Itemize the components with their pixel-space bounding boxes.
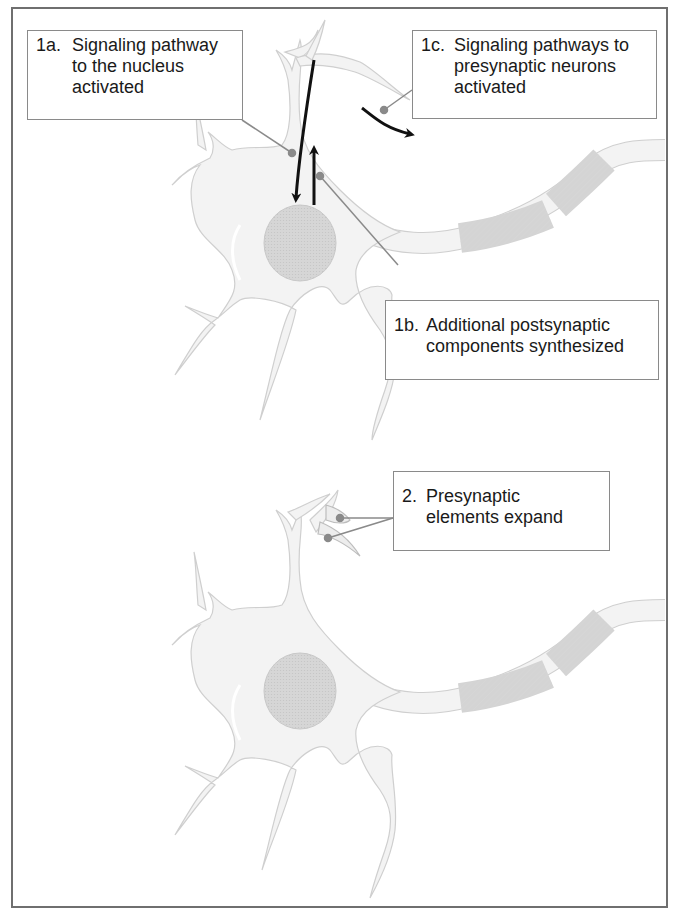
label-1a: 1a. Signaling pathway to the nucleus act… (27, 30, 243, 120)
label-1b-line-2: components synthesized (394, 336, 650, 357)
leader-dot-1b (317, 173, 324, 180)
label-1a-line-1: Signaling pathway (72, 35, 218, 56)
label-1b-number: 1b. (394, 315, 426, 336)
bottom-neuron (172, 490, 665, 898)
label-2-line-2: elements expand (402, 507, 601, 528)
leader-dot-1c (381, 107, 388, 114)
label-1c-number: 1c. (421, 35, 454, 56)
leader-dot-2b (325, 535, 332, 542)
label-1c-line-3: activated (421, 77, 648, 98)
label-1c-line-1: Signaling pathways to (454, 35, 629, 56)
label-2: 2. Presynaptic elements expand (393, 471, 610, 551)
label-1a-line-3: activated (36, 77, 234, 98)
label-1a-number: 1a. (36, 35, 72, 56)
label-1c: 1c. Signaling pathways to presynaptic ne… (412, 30, 657, 119)
leader-dot-1a (289, 150, 296, 157)
neuron-illustration (0, 0, 678, 919)
label-1b: 1b. Additional postsynaptic components s… (385, 300, 659, 380)
label-1a-line-2: to the nucleus (36, 56, 234, 77)
label-1c-line-2: presynaptic neurons (421, 56, 648, 77)
label-2-number: 2. (402, 486, 426, 507)
label-2-line-1: Presynaptic (426, 486, 520, 507)
leader-dot-2a (337, 515, 344, 522)
label-1b-line-1: Additional postsynaptic (426, 315, 610, 336)
